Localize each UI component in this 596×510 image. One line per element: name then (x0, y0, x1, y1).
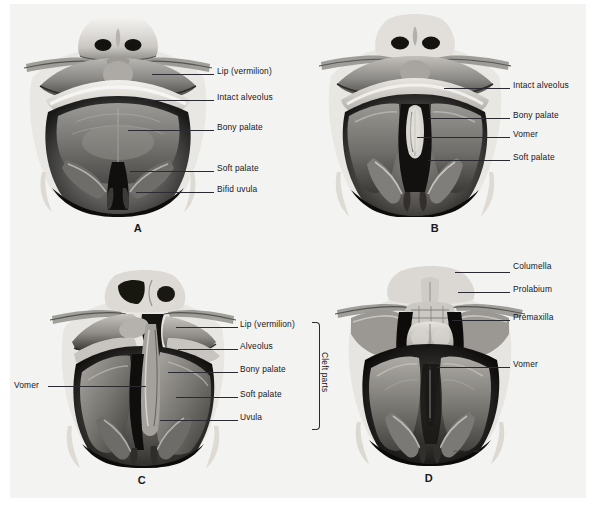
panel-d-illustration (335, 266, 525, 466)
label-a-bifid-uvula: Bifid uvula (217, 185, 257, 193)
label-c-vomer: Vomer (14, 381, 39, 389)
panel-a-letter: A (128, 222, 148, 234)
label-c-uvula: Uvula (240, 413, 262, 421)
leader-line-a-1 (152, 74, 214, 75)
cleft-parts-bracket (312, 322, 320, 430)
panel-b: B (315, 12, 515, 217)
panel-c-illustration (48, 268, 238, 468)
panel-a-illustration (18, 12, 218, 217)
panel-c-letter: C (132, 474, 152, 486)
label-a-soft-palate: Soft palate (217, 164, 259, 172)
label-c-alveolus: Alveolus (240, 342, 273, 350)
leader-line-d-3 (452, 320, 510, 321)
leader-line-b-3 (417, 137, 510, 138)
panel-d: D (335, 266, 525, 466)
label-d-columella: Columella (513, 262, 552, 270)
label-c-lip-vermilion: Lip (vermilion) (240, 320, 295, 328)
panel-a: A (18, 12, 218, 217)
cleft-parts-label: Cleft parts (320, 352, 330, 392)
leader-line-c-vomer (48, 386, 146, 387)
figure-plate: A Lip (vermilion) Intact alveolus Bony p… (0, 0, 596, 510)
leader-line-d-4 (437, 367, 510, 368)
panel-d-letter: D (419, 472, 439, 484)
leader-line-b-2 (428, 118, 510, 119)
leader-line-a-3 (128, 130, 214, 131)
leader-line-d-2 (458, 292, 510, 293)
panel-b-letter: B (425, 222, 445, 234)
label-a-intact-alveolus: Intact alveolus (217, 93, 273, 101)
leader-line-a-4 (130, 171, 214, 172)
leader-line-c-5 (160, 420, 238, 421)
label-b-soft-palate: Soft palate (513, 153, 555, 161)
label-d-premaxilla: Premaxilla (513, 313, 554, 321)
leader-line-a-5 (136, 192, 214, 193)
label-b-intact-alveolus: Intact alveolus (513, 81, 569, 89)
label-d-vomer: Vomer (513, 360, 538, 368)
label-c-bony-palate: Bony palate (240, 365, 286, 373)
leader-line-d-1 (455, 272, 510, 273)
leader-line-b-1 (444, 88, 510, 89)
label-b-bony-palate: Bony palate (513, 111, 559, 119)
label-a-lip-vermilion: Lip (vermilion) (217, 67, 272, 75)
panel-c: C (48, 268, 238, 468)
label-c-soft-palate: Soft palate (240, 390, 282, 398)
leader-line-c-3 (168, 372, 238, 373)
leader-line-a-2 (143, 100, 214, 101)
leader-line-b-4 (428, 160, 510, 161)
leader-line-c-1 (176, 327, 238, 328)
label-d-prolabium: Prolabium (513, 285, 552, 293)
panel-b-illustration (315, 12, 515, 217)
leader-line-c-2 (178, 349, 238, 350)
leader-line-c-4 (176, 397, 238, 398)
label-a-bony-palate: Bony palate (217, 123, 263, 131)
label-b-vomer: Vomer (513, 130, 538, 138)
